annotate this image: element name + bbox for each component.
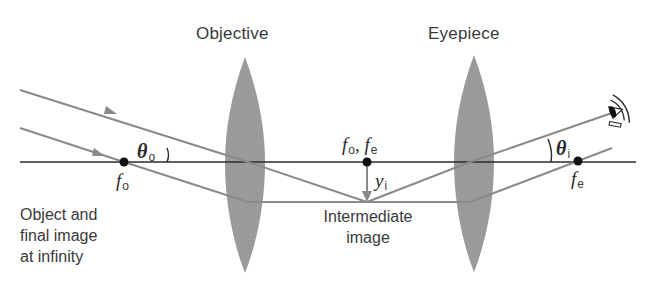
f-symbol: f: [116, 170, 121, 191]
intermediate-note-line: Intermediate: [303, 206, 433, 227]
theta-subscript: i: [567, 147, 570, 161]
y-subscript: i: [384, 179, 387, 193]
y-i-label: yi: [375, 170, 387, 192]
f-o-label: fo: [116, 170, 129, 192]
object-note-line: final image: [20, 225, 97, 246]
f-symbol: f: [364, 134, 369, 155]
y-symbol: y: [375, 170, 383, 191]
f-symbol: f: [571, 168, 576, 189]
f-subscript: o: [122, 179, 129, 193]
intermediate-note-line: image: [303, 227, 433, 248]
theta-symbol: θ: [556, 137, 566, 159]
eyepiece-label: Eyepiece: [428, 24, 500, 44]
focal-point-f-o: [120, 158, 129, 167]
ray-direction-arrow-icon: [92, 148, 105, 156]
theta-i-label: θi: [556, 137, 570, 160]
f-subscript: o: [348, 143, 355, 157]
f-shared-label: fo, fe: [342, 134, 377, 156]
separator: ,: [355, 134, 360, 155]
object-note: Object and final image at infinity: [20, 204, 97, 267]
theta-i-angle-arc: [548, 139, 552, 162]
ray-direction-arrow-icon: [104, 106, 117, 114]
focal-point-shared: [363, 158, 372, 167]
theta-o-angle-arc: [167, 148, 169, 162]
f-subscript: e: [371, 143, 378, 157]
focal-point-f-e: [574, 157, 583, 166]
f-e-label: fe: [571, 168, 584, 190]
f-symbol: f: [342, 134, 347, 155]
lower-ray: [20, 128, 612, 202]
theta-o-label: θo: [137, 140, 155, 163]
object-note-line: Object and: [20, 204, 97, 225]
f-subscript: e: [577, 177, 584, 191]
eye-icon: [600, 92, 632, 131]
eyepiece-lens: [454, 55, 494, 272]
theta-symbol: θ: [137, 140, 147, 162]
theta-subscript: o: [148, 150, 155, 164]
object-note-line: at infinity: [20, 246, 97, 267]
intermediate-note: Intermediate image: [303, 206, 433, 248]
objective-label: Objective: [196, 24, 269, 44]
